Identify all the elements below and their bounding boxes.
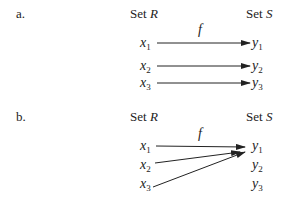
codomain-set-title: Set S xyxy=(246,109,272,125)
domain-element: x3 xyxy=(140,176,151,193)
codomain-element: y3 xyxy=(252,75,263,92)
codomain-element: y1 xyxy=(252,138,263,155)
codomain-set-title: Set S xyxy=(246,6,272,22)
part-label: a. xyxy=(16,6,25,22)
codomain-element: y1 xyxy=(252,35,263,52)
domain-element: x1 xyxy=(140,35,151,52)
domain-set-title: Set R xyxy=(130,109,158,125)
domain-element: x1 xyxy=(140,138,151,155)
part-label: b. xyxy=(16,109,26,125)
function-label: f xyxy=(198,126,202,142)
domain-element: x2 xyxy=(140,58,151,75)
codomain-element: y2 xyxy=(252,58,263,75)
domain-set-title: Set R xyxy=(130,6,158,22)
domain-element: x3 xyxy=(140,75,151,92)
function-label: f xyxy=(198,22,202,38)
domain-element: x2 xyxy=(140,157,151,174)
arrow-b-x2-y1 xyxy=(155,152,240,163)
codomain-element: y3 xyxy=(252,176,263,193)
codomain-element: y2 xyxy=(252,157,263,174)
arrow-b-x1-y1 xyxy=(156,146,245,147)
